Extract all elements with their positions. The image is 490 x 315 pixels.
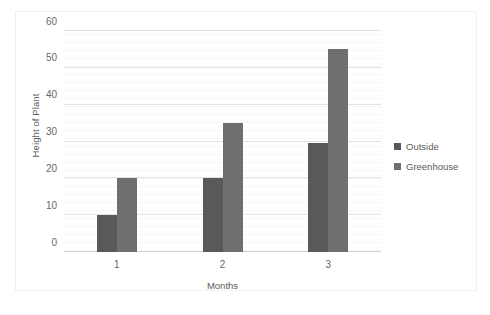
legend-label: Greenhouse [406,161,458,172]
chart-legend: OutsideGreenhouse [394,141,474,181]
y-axis-tick-label: 60 [46,15,57,26]
legend-item-outside: Outside [394,141,474,152]
bar-group: 3 [308,31,348,252]
legend-swatch-icon [394,143,401,150]
y-axis-tick-label: 30 [46,126,57,137]
legend-label: Outside [406,141,439,152]
bar-greenhouse-1 [117,178,137,252]
bar-chart: Height of Plant 0102030405060123 Months … [15,11,477,291]
legend-item-greenhouse: Greenhouse [394,161,474,172]
y-axis-tick-label: 0 [51,236,57,247]
y-axis-title: Height of Plant [30,76,41,176]
y-axis-tick-label: 10 [46,199,57,210]
y-axis-tick-label: 20 [46,162,57,173]
legend-swatch-icon [394,163,401,170]
bar-group: 1 [97,31,137,252]
plot-area: 0102030405060123 [64,31,381,252]
x-axis-tick-label: 1 [97,259,137,270]
bar-greenhouse-2 [223,123,243,252]
bar-outside-2 [203,178,223,252]
x-axis-tick-label: 3 [308,259,348,270]
bar-greenhouse-3 [328,49,348,252]
x-axis-title: Months [64,280,381,291]
bar-outside-1 [97,215,117,252]
y-axis-tick-label: 50 [46,52,57,63]
bar-group: 2 [203,31,243,252]
x-axis-tick-label: 2 [203,259,243,270]
y-axis-tick-label: 40 [46,89,57,100]
bar-outside-3 [308,143,328,252]
